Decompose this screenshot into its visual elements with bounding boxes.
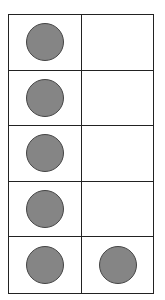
frame-cell [9,126,82,182]
frame-cell [9,15,82,71]
frame-cell [9,71,82,127]
ten-frame [8,14,154,294]
counter-circle-icon [26,190,64,228]
counter-circle-icon [26,23,64,61]
counter-circle-icon [26,246,64,284]
frame-cell [82,237,153,293]
frame-cell [82,126,153,182]
frame-cell [9,237,82,293]
counter-circle-icon [26,134,64,172]
counter-circle-icon [26,79,64,117]
frame-cell [82,71,153,127]
counter-circle-icon [99,246,137,284]
frame-cell [9,182,82,238]
frame-cell [82,15,153,71]
frame-cell [82,182,153,238]
